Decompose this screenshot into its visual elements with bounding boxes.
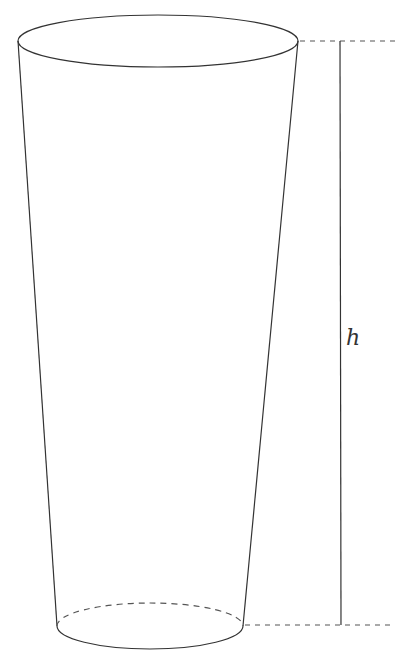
- bottom-base-hidden-arc: [57, 603, 243, 626]
- top-base-ellipse: [18, 15, 298, 67]
- height-dimension-line: [340, 41, 341, 625]
- height-label: h: [346, 325, 360, 350]
- bottom-base-visible-arc: [57, 626, 243, 649]
- frustum-diagram: h: [0, 0, 410, 666]
- left-side-edge: [18, 41, 57, 626]
- right-side-edge: [243, 41, 298, 626]
